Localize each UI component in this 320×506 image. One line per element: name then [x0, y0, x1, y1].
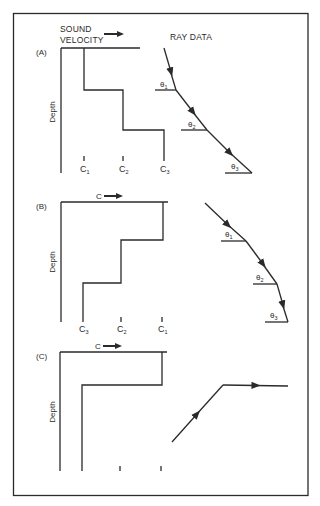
- depth-axis-label: Depth: [48, 401, 57, 422]
- svg-text:θ3: θ3: [231, 162, 239, 172]
- svg-text:θ3: θ3: [270, 311, 278, 321]
- velocity-axis-label: C: [95, 342, 122, 351]
- svg-text:C3: C3: [79, 324, 89, 335]
- velocity-labels: C3 C2 C1: [79, 324, 168, 335]
- velocity-profile: [82, 352, 162, 471]
- panel-c: (C) C Depth: [36, 342, 288, 471]
- sound-velocity-label-line2: VELOCITY: [60, 35, 104, 45]
- panel-label: (A): [36, 48, 47, 57]
- svg-text:θ2: θ2: [188, 120, 196, 130]
- svg-text:C1: C1: [158, 324, 168, 335]
- svg-text:C: C: [95, 342, 101, 351]
- panel-a: (A) Depth C1 C2 C3 θ1 θ2: [36, 48, 252, 175]
- velocity-profile: [84, 48, 164, 161]
- depth-axis-label: Depth: [48, 101, 57, 122]
- ray-data-label: RAY DATA: [170, 32, 212, 42]
- svg-text:θ1: θ1: [160, 80, 168, 90]
- sound-velocity-label-line1: SOUND: [60, 24, 92, 34]
- ray-path: [172, 385, 288, 442]
- sound-velocity-ray-diagram: SOUND VELOCITY RAY DATA (A) Depth C1 C2 …: [0, 0, 320, 506]
- angle-labels: θ1 θ2 θ3: [225, 230, 278, 321]
- velocity-direction-arrow-icon: [104, 31, 124, 37]
- svg-text:C2: C2: [117, 324, 127, 335]
- velocity-axis-label: C: [96, 192, 123, 201]
- angle-labels: θ1 θ2 θ3: [160, 80, 239, 172]
- arrow-right-icon: [116, 193, 123, 199]
- svg-text:θ1: θ1: [225, 230, 233, 240]
- svg-text:θ2: θ2: [256, 273, 264, 283]
- ray-path: [164, 48, 252, 173]
- arrow-right-icon: [115, 343, 122, 349]
- svg-text:C1: C1: [80, 164, 90, 175]
- ray-path: [205, 203, 288, 322]
- panel-label: (C): [36, 352, 47, 361]
- velocity-profile: [83, 202, 163, 322]
- header: SOUND VELOCITY RAY DATA: [60, 24, 212, 45]
- velocity-labels: C1 C2 C3: [80, 164, 170, 175]
- svg-text:C2: C2: [119, 164, 129, 175]
- svg-text:C3: C3: [160, 164, 170, 175]
- panel-b: (B) C Depth C3 C2 C1 θ1 θ2: [36, 192, 288, 335]
- depth-axis-label: Depth: [48, 251, 57, 272]
- svg-text:C: C: [96, 192, 102, 201]
- panel-label: (B): [36, 202, 47, 211]
